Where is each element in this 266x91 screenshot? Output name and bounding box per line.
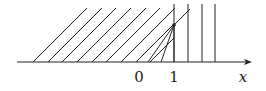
tick-label-1: 1 <box>169 68 179 86</box>
tick-label-0: 0 <box>134 68 144 86</box>
characteristic-line <box>106 8 160 62</box>
fan-apex-point <box>172 23 176 27</box>
characteristic-line <box>48 8 102 62</box>
characteristic-line <box>92 8 146 62</box>
vertical-characteristic-lines <box>174 4 215 62</box>
characteristic-line <box>33 8 87 62</box>
characteristics-diagram: 0 1 x <box>0 0 266 91</box>
characteristic-line <box>77 8 131 62</box>
characteristic-line <box>62 8 116 62</box>
x-axis-label: x <box>239 68 248 86</box>
